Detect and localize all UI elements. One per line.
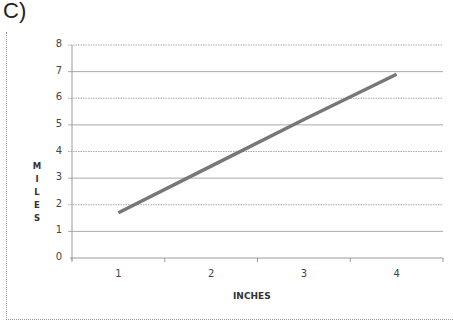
y-tick-label: 0 (48, 251, 62, 262)
y-tick-label: 3 (48, 171, 62, 182)
y-tick-label: 8 (48, 38, 62, 49)
y-tick-label: 2 (48, 198, 62, 209)
y-tick-label: 4 (48, 145, 62, 156)
x-tick-label: 3 (294, 268, 314, 279)
y-tick-label: 7 (48, 65, 62, 76)
x-tick-marks (72, 258, 443, 262)
gridlines (68, 45, 443, 231)
y-axis-title: M I L E S (30, 160, 44, 225)
y-tick-label: 6 (48, 91, 62, 102)
x-axis-title: INCHES (233, 291, 271, 301)
data-line (118, 74, 396, 212)
y-tick-label: 5 (48, 118, 62, 129)
x-tick-label: 1 (108, 268, 128, 279)
x-tick-label: 2 (201, 268, 221, 279)
y-tick-label: 1 (48, 224, 62, 235)
x-tick-label: 4 (387, 268, 407, 279)
